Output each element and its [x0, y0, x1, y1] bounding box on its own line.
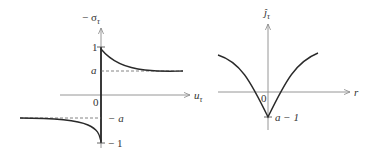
- lower-branch-curve: [20, 118, 101, 141]
- right-plot: ĵτ 0 a − 1 r: [218, 6, 359, 130]
- left-origin-label: 0: [93, 96, 99, 108]
- svg-text:ĵτ: ĵτ: [262, 6, 271, 21]
- tick-label-one: 1: [92, 41, 98, 53]
- right-origin-label: 0: [261, 92, 267, 104]
- tick-label-a: a: [91, 64, 97, 76]
- right-x-axis-label: r: [354, 86, 359, 98]
- svg-text:uτ: uτ: [194, 89, 204, 104]
- diagram-canvas: − στ 1 a 0 − a − 1 uτ ĵτ 0 a − 1 r: [0, 0, 377, 150]
- upper-branch-curve: [101, 49, 183, 71]
- min-label: a − 1: [275, 111, 299, 123]
- svg-text:− στ: − στ: [82, 11, 101, 26]
- left-plot: − στ 1 a 0 − a − 1 uτ: [20, 11, 204, 149]
- tick-label-neg-a: − a: [108, 112, 124, 124]
- tick-label-neg-one: − 1: [108, 137, 122, 149]
- left-y-axis-label: − σ: [82, 11, 97, 23]
